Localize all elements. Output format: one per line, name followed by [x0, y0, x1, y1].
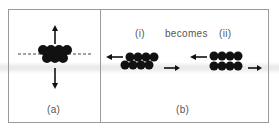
atom-cluster-b-i: [121, 53, 159, 70]
sub-label-i: (i): [135, 28, 145, 39]
panel-a-graphic: [18, 25, 92, 89]
figure-graphics: [0, 0, 279, 130]
panel-b-ii-graphic: [190, 52, 262, 72]
panel-b-label: (b): [176, 104, 189, 115]
panel-b-i-graphic: [106, 53, 180, 72]
panel-a-label: (a): [47, 104, 60, 115]
connector-label: becomes: [165, 28, 208, 39]
atom-cluster-a: [38, 45, 72, 63]
sub-label-ii: (ii): [219, 28, 231, 39]
atom-cluster-b-ii: [210, 52, 243, 71]
